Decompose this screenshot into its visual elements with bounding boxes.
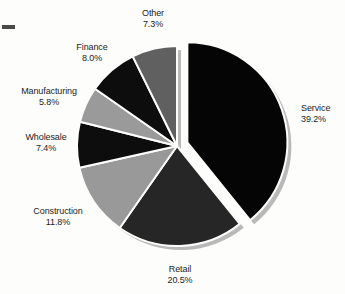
slice-label-finance: Finance 8.0%: [61, 42, 123, 64]
slice-label-service-name: Service: [301, 103, 345, 114]
slice-label-other-value: 7.3%: [123, 19, 183, 30]
slice-label-retail: Retail 20.5%: [152, 264, 208, 286]
slice-label-construction: Construction 11.8%: [20, 206, 96, 228]
slice-label-wholesale-value: 7.4%: [14, 143, 78, 154]
slice-label-construction-value: 11.8%: [20, 217, 96, 228]
slice-label-retail-name: Retail: [152, 264, 208, 275]
slice-label-service: Service 39.2%: [301, 103, 345, 125]
slice-label-construction-name: Construction: [20, 206, 96, 217]
slice-label-other-name: Other: [123, 8, 183, 19]
slice-label-service-value: 39.2%: [301, 114, 345, 125]
pie-chart-figure: Other 7.3% Finance 8.0% Manufacturing 5.…: [0, 0, 345, 294]
slice-label-manufacturing: Manufacturing 5.8%: [9, 86, 89, 108]
slice-label-wholesale: Wholesale 7.4%: [14, 132, 78, 154]
slice-label-other: Other 7.3%: [123, 8, 183, 30]
slice-label-manufacturing-name: Manufacturing: [9, 86, 89, 97]
slice-label-finance-name: Finance: [61, 42, 123, 53]
pie-slice-layer: [77, 42, 287, 246]
slice-label-retail-value: 20.5%: [152, 275, 208, 286]
slice-label-wholesale-name: Wholesale: [14, 132, 78, 143]
slice-label-finance-value: 8.0%: [61, 53, 123, 64]
slice-label-manufacturing-value: 5.8%: [9, 97, 89, 108]
